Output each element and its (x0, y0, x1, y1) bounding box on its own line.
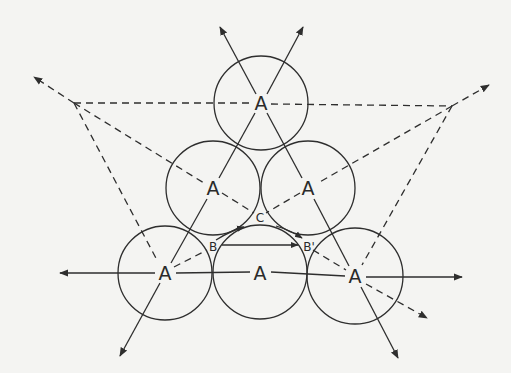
close-packing-diagram: A A A A A A B B' C (0, 0, 511, 373)
site-label-c: C (256, 211, 264, 225)
site-label-b-prime: B' (303, 240, 315, 254)
atom-label-top: A (255, 92, 268, 114)
atom-label-bottom-middle: A (254, 262, 267, 284)
atom-label-bottom-left: A (159, 262, 172, 284)
atom-label-mid-left: A (207, 177, 220, 199)
atom-label-bottom-right: A (349, 265, 362, 287)
site-label-b: B (209, 240, 217, 254)
atom-label-mid-right: A (302, 177, 315, 199)
b-c-b-prime-path (216, 226, 302, 240)
